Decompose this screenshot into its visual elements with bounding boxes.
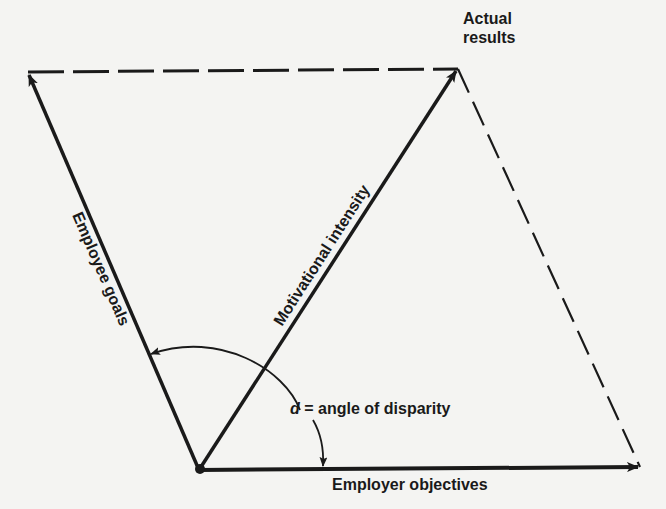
angle-arc-to-employee-goals: [151, 347, 300, 410]
employee-goals-vector: [29, 75, 199, 470]
dashed-line-results-to-objectives: [458, 69, 640, 467]
actual-results-line2: results: [463, 29, 516, 46]
angle-of-disparity-label: d = angle of disparity: [290, 400, 451, 417]
angle-definition: = angle of disparity: [300, 400, 451, 417]
angle-arrow-to-employer-objectives: [313, 420, 323, 466]
dashed-line-goals-to-results: [28, 69, 458, 72]
motivational-intensity-label: Motivational intensity: [270, 182, 373, 329]
employee-goals-label: Employee goals: [69, 209, 133, 328]
disparity-diagram: Actual results Employee goals Motivation…: [0, 0, 666, 509]
employer-objectives-label: Employer objectives: [332, 476, 488, 493]
employer-objectives-vector: [199, 467, 638, 470]
origin-point: [195, 464, 205, 474]
actual-results-label: Actual results: [463, 10, 516, 46]
actual-results-line1: Actual: [463, 10, 512, 27]
